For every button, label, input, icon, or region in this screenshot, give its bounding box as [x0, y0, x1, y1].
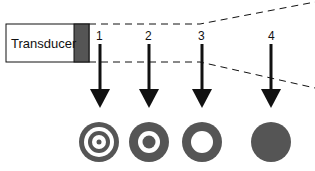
zone-number-3: 3 — [198, 29, 205, 43]
transducer: Transducer — [6, 24, 89, 62]
zone-number-1: 1 — [96, 29, 103, 43]
pattern-4-solid-disc — [251, 122, 291, 162]
pattern-3-single-ring — [182, 122, 222, 162]
arrow-down-icon — [192, 44, 212, 108]
arrow-down-icon — [90, 44, 110, 108]
transducer-label: Transducer — [11, 36, 77, 51]
arrows — [90, 44, 281, 108]
pattern-2-ring-with-dot — [129, 122, 169, 162]
beam-upper-edge — [89, 2, 315, 24]
zone-number-2: 2 — [145, 29, 152, 43]
arrow-down-icon — [139, 44, 159, 108]
pattern-1-concentric-rings — [79, 122, 119, 162]
arrow-down-icon — [261, 44, 281, 108]
beam-pattern-diagram: Transducer 1 2 3 4 — [0, 0, 315, 171]
zone-number-4: 4 — [268, 29, 275, 43]
